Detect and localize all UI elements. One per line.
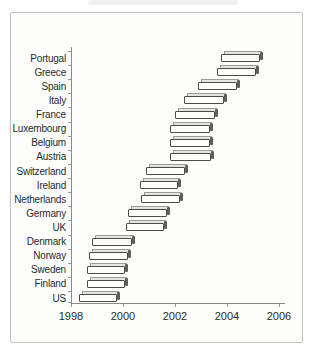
category-label-norway: Norway bbox=[7, 250, 66, 261]
y-axis-tick bbox=[68, 107, 71, 108]
bar-portugal bbox=[221, 54, 261, 62]
bar-spain bbox=[198, 82, 237, 90]
bar-italy bbox=[184, 96, 224, 104]
bar-ireland bbox=[140, 181, 179, 189]
plot-area: 19982000200220042006PortugalGreeceSpainI… bbox=[11, 13, 302, 342]
y-axis-tick bbox=[68, 79, 71, 80]
x-tick-label-2006: 2006 bbox=[259, 310, 299, 322]
bar-luxembourg bbox=[170, 125, 210, 133]
scan-artifact bbox=[88, 0, 238, 5]
x-axis-tick bbox=[71, 304, 72, 307]
y-axis-tick bbox=[68, 51, 71, 52]
category-label-denmark: Denmark bbox=[7, 236, 66, 247]
x-tick-label-2002: 2002 bbox=[155, 310, 195, 322]
category-label-spain: Spain bbox=[7, 81, 66, 92]
bar-us bbox=[79, 294, 118, 302]
y-axis-tick bbox=[68, 220, 71, 221]
y-axis-tick bbox=[68, 150, 71, 151]
category-label-portugal: Portugal bbox=[7, 53, 66, 64]
x-axis-tick bbox=[123, 304, 124, 307]
category-label-france: France bbox=[7, 109, 66, 120]
x-axis-line bbox=[71, 303, 285, 304]
bar-germany bbox=[128, 209, 167, 217]
bar-netherlands bbox=[141, 195, 180, 203]
category-label-italy: Italy bbox=[7, 95, 66, 106]
x-axis-tick bbox=[227, 304, 228, 307]
x-tick-label-2004: 2004 bbox=[207, 310, 247, 322]
category-label-switzerland: Switzerland bbox=[7, 166, 66, 177]
y-axis-tick bbox=[68, 291, 71, 292]
y-axis-tick bbox=[68, 277, 71, 278]
chart-figure: 19982000200220042006PortugalGreeceSpainI… bbox=[10, 12, 303, 343]
bar-sweden bbox=[87, 266, 126, 274]
y-axis-tick bbox=[68, 302, 71, 303]
category-label-ireland: Ireland bbox=[7, 180, 66, 191]
bar-switzerland bbox=[146, 167, 185, 175]
y-axis-tick bbox=[68, 164, 71, 165]
bar-uk bbox=[126, 223, 165, 231]
bar-finland bbox=[87, 280, 126, 288]
category-label-luxembourg: Luxembourg bbox=[7, 123, 66, 134]
y-axis-tick bbox=[68, 93, 71, 94]
y-axis-tick bbox=[68, 263, 71, 264]
y-axis-tick bbox=[68, 136, 71, 137]
category-label-austria: Austria bbox=[7, 151, 66, 162]
x-tick-label-1998: 1998 bbox=[51, 310, 91, 322]
category-label-greece: Greece bbox=[7, 67, 66, 78]
category-label-belgium: Belgium bbox=[7, 137, 66, 148]
bar-greece bbox=[217, 68, 257, 76]
x-axis-tick bbox=[279, 304, 280, 307]
y-axis-tick bbox=[68, 235, 71, 236]
category-label-uk: UK bbox=[7, 222, 66, 233]
bar-france bbox=[175, 111, 215, 119]
y-axis-tick bbox=[68, 206, 71, 207]
bar-austria bbox=[170, 153, 211, 161]
x-tick-label-2000: 2000 bbox=[103, 310, 143, 322]
category-label-germany: Germany bbox=[7, 208, 66, 219]
bar-belgium bbox=[170, 139, 210, 147]
x-axis-tick bbox=[175, 304, 176, 307]
category-label-finland: Finland bbox=[7, 278, 66, 289]
y-axis-tick bbox=[68, 178, 71, 179]
y-axis-tick bbox=[68, 192, 71, 193]
category-label-netherlands: Netherlands bbox=[7, 194, 66, 205]
y-axis-tick bbox=[68, 249, 71, 250]
category-label-us: US bbox=[7, 293, 66, 304]
bar-norway bbox=[89, 252, 128, 260]
category-label-sweden: Sweden bbox=[7, 264, 66, 275]
y-axis-tick bbox=[68, 122, 71, 123]
y-axis-line bbox=[71, 47, 72, 303]
bar-denmark bbox=[92, 238, 132, 246]
y-axis-tick bbox=[68, 65, 71, 66]
